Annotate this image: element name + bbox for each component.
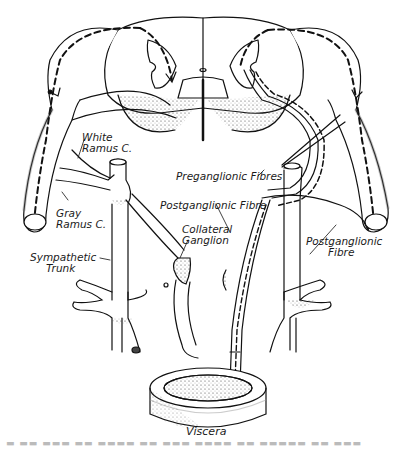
label-preganglionic-fibres: Preganglionic Fibres xyxy=(176,171,282,182)
label-postganglionic-right-line2: Fibre xyxy=(306,247,382,258)
figure-caption-cropped: ▬ ▬▬ ▬▬▬ ▬▬ ▬▬▬▬ ▬▬ ▬▬▬ ▬▬▬▬ ▬▬ ▬▬▬▬▬ ▬▬… xyxy=(6,438,406,448)
label-gray-ramus-line2: Ramus C. xyxy=(56,219,106,230)
anatomical-figure: White Ramus C. Gray Ramus C. Sympathetic… xyxy=(0,0,409,450)
label-sympathetic-trunk: Sympathetic Trunk xyxy=(30,252,96,274)
label-viscera: Viscera xyxy=(186,426,226,437)
label-collateral-ganglion: Collateral Ganglion xyxy=(182,224,232,246)
label-postganglionic-fibre-right: Postganglionic Fibre xyxy=(306,236,382,258)
label-postganglionic-fibre-center: Postganglionic Fibre xyxy=(160,200,266,211)
label-gray-ramus: Gray Ramus C. xyxy=(56,208,106,230)
viscera xyxy=(150,368,266,432)
label-white-ramus-line2: Ramus C. xyxy=(82,143,132,154)
label-white-ramus: White Ramus C. xyxy=(82,132,132,154)
label-sympathetic-trunk-line2: Trunk xyxy=(30,263,96,274)
label-collateral-ganglion-line2: Ganglion xyxy=(182,235,232,246)
collateral-ganglion xyxy=(164,258,198,358)
spinal-cord xyxy=(105,17,304,140)
